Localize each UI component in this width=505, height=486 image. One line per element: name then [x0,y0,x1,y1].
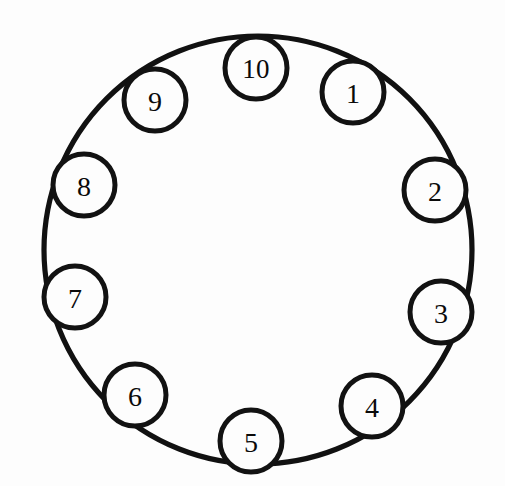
node-6[interactable]: 6 [104,364,166,426]
node-label-8: 8 [77,171,91,202]
node-label-6: 6 [128,381,142,412]
node-label-5: 5 [244,427,258,458]
node-label-4: 4 [365,392,379,423]
node-label-1: 1 [346,78,360,109]
node-label-2: 2 [428,176,442,207]
node-2[interactable]: 2 [404,159,466,221]
node-5[interactable]: 5 [220,410,282,472]
node-10[interactable]: 10 [225,37,287,99]
node-3[interactable]: 3 [410,281,472,343]
ring-diagram-canvas: 12345678910 [0,0,505,486]
node-circles-layer: 12345678910 [44,37,472,472]
node-8[interactable]: 8 [53,154,115,216]
node-label-3: 3 [434,298,448,329]
node-1[interactable]: 1 [322,61,384,123]
node-7[interactable]: 7 [44,266,106,328]
node-9[interactable]: 9 [124,69,186,131]
ring-diagram-svg: 12345678910 [0,0,505,486]
node-label-7: 7 [68,283,82,314]
node-4[interactable]: 4 [341,375,403,437]
node-label-10: 10 [242,54,269,84]
node-label-9: 9 [148,86,162,117]
